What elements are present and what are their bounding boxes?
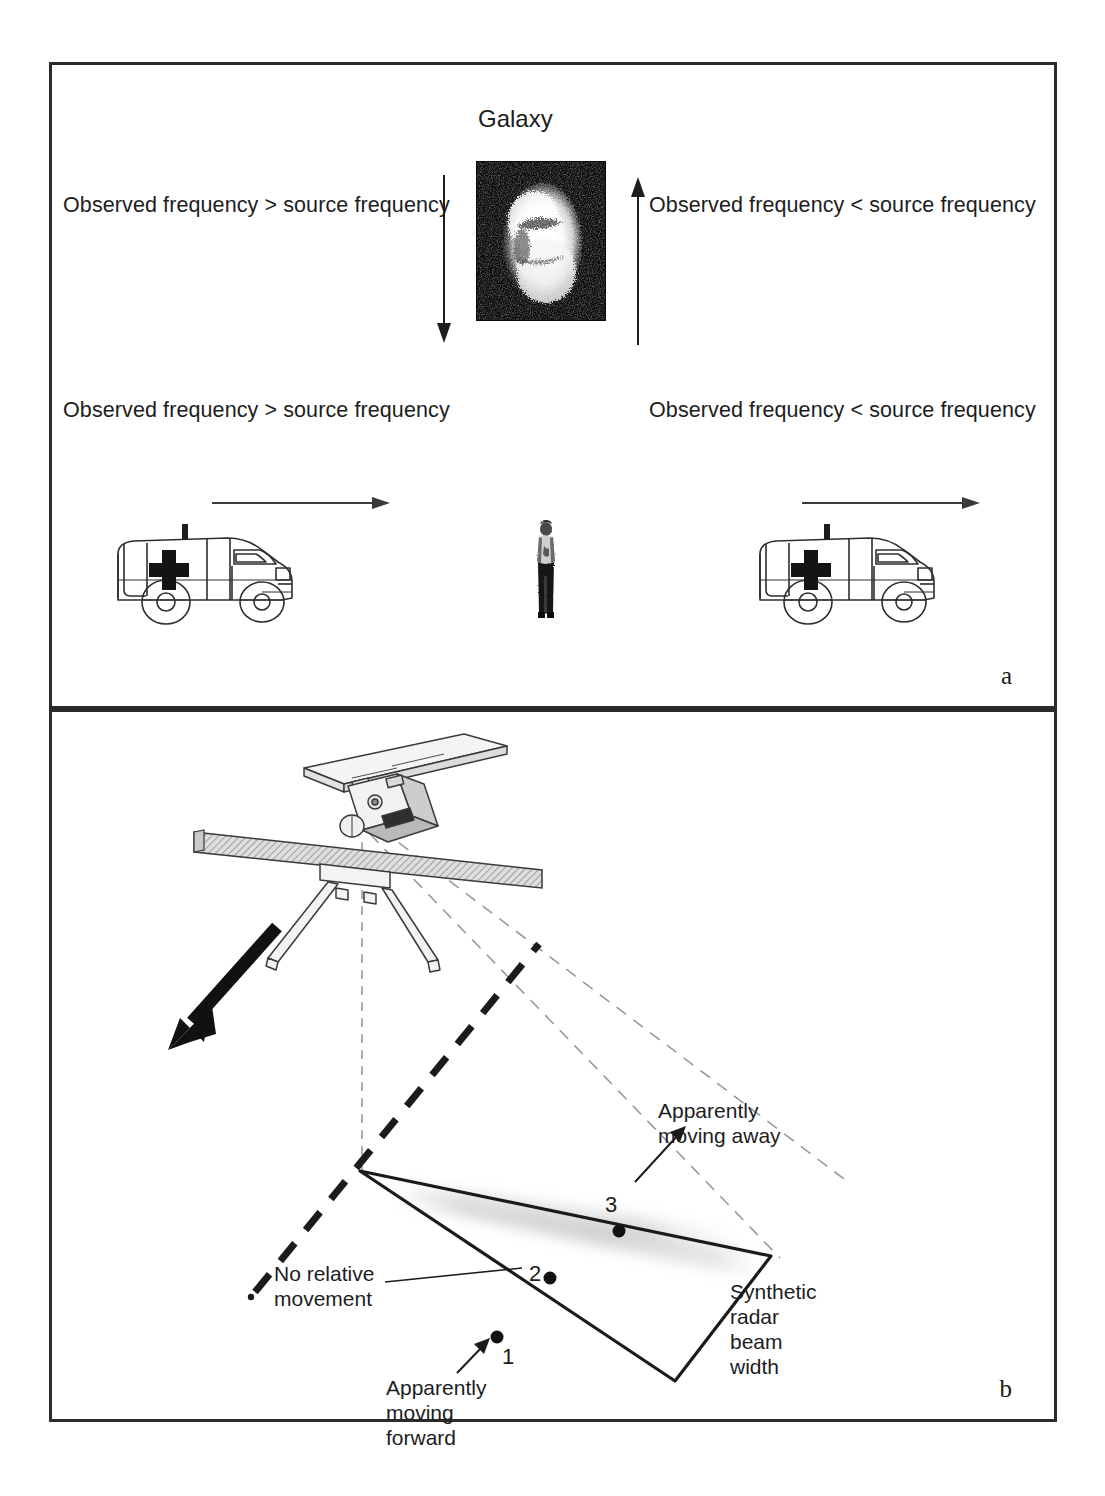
panel-b: Apparently moving away 3 No relative mov… — [49, 709, 1057, 1422]
flight-direction-arrow-icon — [168, 927, 277, 1050]
bold-dashed-ground-track — [255, 944, 539, 1292]
label-apparently-moving-forward: Apparently moving forward — [386, 1375, 486, 1450]
ground-track-end-dot — [248, 1294, 254, 1300]
radar-geometry — [52, 712, 1054, 1419]
point-label-2: 2 — [529, 1261, 541, 1287]
sar-antenna-bar — [194, 830, 542, 888]
figure-root: Galaxy Observed frequency > source frequ… — [0, 0, 1105, 1496]
observer-person-icon — [528, 520, 564, 624]
panel-a: Galaxy Observed frequency > source frequ… — [49, 62, 1057, 709]
beam-illumination-band — [382, 1178, 764, 1280]
motion-arrow-left-icon — [212, 493, 392, 513]
galaxy-photo — [476, 161, 606, 321]
scatterer-point-2 — [544, 1272, 557, 1285]
galaxy-redshift-label: Observed frequency < source frequency — [649, 193, 1036, 218]
panel-letter-a: a — [1001, 662, 1012, 690]
down-arrow-icon — [432, 175, 456, 345]
scatterer-point-3 — [613, 1225, 626, 1238]
label-apparently-moving-away: Apparently moving away — [658, 1098, 781, 1148]
cross-emblem — [149, 550, 189, 590]
label-synthetic-radar-beam-width: Synthetic radar beam width — [730, 1279, 816, 1379]
galaxy-title: Galaxy — [478, 105, 553, 133]
beam-footprint-outline — [360, 1171, 771, 1381]
panel-letter-b: b — [1000, 1375, 1013, 1403]
ambulance-icon-left — [110, 520, 300, 630]
ambulance-icon-right — [752, 520, 942, 630]
ambulance-approach-label: Observed frequency > source frequency — [63, 398, 450, 423]
label-no-relative-movement: No relative movement — [274, 1261, 374, 1311]
motion-arrow-right-icon — [802, 493, 982, 513]
point-label-3: 3 — [605, 1192, 617, 1218]
dashed-beam-edge-near — [370, 834, 780, 1258]
satellite-radar-icon — [194, 734, 542, 972]
scatterer-point-1 — [491, 1331, 504, 1344]
up-arrow-icon — [626, 175, 650, 345]
point-label-1: 1 — [502, 1344, 514, 1370]
leader-apparently-moving-forward — [457, 1338, 490, 1373]
galaxy-blueshift-label: Observed frequency > source frequency — [63, 193, 450, 218]
cross-emblem — [791, 550, 831, 590]
leader-no-relative-movement — [385, 1268, 522, 1282]
ambulance-recede-label: Observed frequency < source frequency — [649, 398, 1036, 423]
